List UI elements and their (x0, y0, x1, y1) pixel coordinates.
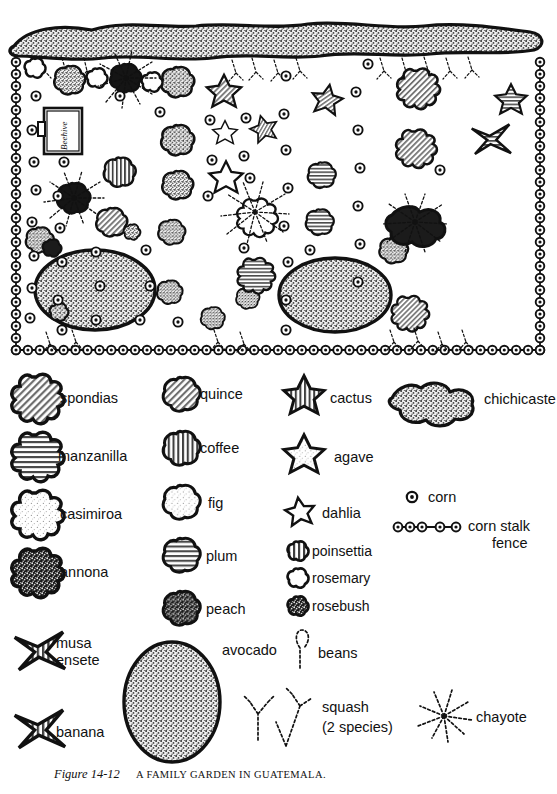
legend-label-chayote: chayote (476, 709, 527, 725)
legend-item-quince[interactable]: quince (163, 377, 243, 411)
legend-label-coffee: coffee (200, 440, 239, 456)
legend-label-fence: fence (492, 535, 527, 551)
legend-item-annona[interactable]: annona (12, 548, 109, 598)
legend-item-poinsettia[interactable]: poinsettia (288, 541, 373, 560)
caption-main: A FAMILY GARDEN IN GUATEMALA. (136, 769, 326, 780)
legend-label-banana: banana (56, 724, 105, 740)
chichicaste-hedge (10, 23, 542, 59)
map-beehive: Beehive (38, 108, 82, 154)
legend-item-musa-ensete[interactable]: musa ensete (15, 632, 100, 670)
legend-label-beans: beans (318, 645, 358, 661)
legend-label-rosebush: rosebush (312, 598, 370, 614)
legend-item-squash[interactable]: squash (2 species) (244, 688, 393, 746)
legend-item-avocado[interactable]: avocado (124, 642, 277, 762)
legend-item-chichicaste[interactable]: chichicaste (389, 383, 556, 426)
legend-label-chichicaste: chichicaste (484, 391, 556, 407)
legend-item-dahlia[interactable]: dahlia (284, 496, 362, 527)
legend-item-casimiroa[interactable]: casimiroa (12, 490, 123, 540)
legend-item-rosemary[interactable]: rosemary (288, 568, 371, 587)
figure-caption: Figure 14-12 A FAMILY GARDEN IN GUATEMAL… (53, 767, 326, 781)
legend-item-manzanilla[interactable]: manzanilla (12, 432, 128, 482)
legend-label-ensete: ensete (56, 652, 100, 668)
legend-item-plum[interactable]: plum (163, 538, 237, 572)
legend-label-quince: quince (200, 386, 243, 402)
legend-label-musa: musa (56, 635, 92, 651)
legend-item-rosebush[interactable]: rosebush (288, 596, 370, 615)
map-coffee (104, 158, 136, 187)
beehive-label: Beehive (59, 122, 69, 150)
legend: spondias manzanilla casimiroa annona mus… (12, 374, 556, 762)
legend-label-agave: agave (334, 449, 374, 465)
legend-item-banana[interactable]: banana (15, 710, 106, 748)
legend-label-dahlia: dahlia (322, 505, 362, 521)
legend-label-corn-stalk: corn stalk (468, 518, 531, 534)
legend-label-avocado: avocado (222, 642, 277, 658)
legend-item-spondias[interactable]: spondias (12, 374, 118, 424)
legend-label-annona: annona (60, 564, 109, 580)
legend-label-cactus: cactus (330, 390, 372, 406)
legend-item-peach[interactable]: peach (163, 591, 245, 625)
legend-item-beans[interactable]: beans (296, 630, 357, 668)
legend-item-agave[interactable]: agave (284, 435, 374, 473)
legend-item-corn-stalk-fence[interactable]: corn stalk fence (394, 518, 531, 551)
legend-label-spondias: spondias (60, 390, 118, 406)
legend-item-chayote[interactable]: chayote (418, 690, 527, 742)
legend-label-plum: plum (206, 548, 237, 564)
legend-item-corn[interactable]: corn (407, 489, 456, 505)
legend-label-corn: corn (428, 489, 456, 505)
corn-stalk-fence-sample (394, 523, 461, 532)
legend-label-squash: squash (322, 699, 369, 715)
garden-map: Beehive (10, 23, 546, 356)
legend-label-squash-species: (2 species) (322, 719, 393, 735)
legend-label-manzanilla: manzanilla (58, 448, 128, 464)
caption-prefix: Figure 14-12 (53, 767, 120, 781)
legend-item-fig[interactable]: fig (163, 485, 223, 519)
legend-item-cactus[interactable]: cactus (284, 376, 372, 414)
legend-item-coffee[interactable]: coffee (163, 431, 239, 465)
figure-root: Beehive spondias manzanilla casimiroa an… (0, 0, 557, 794)
legend-label-rosemary: rosemary (312, 570, 370, 586)
map-chichicaste-clumps (386, 207, 445, 247)
legend-label-casimiroa: casimiroa (60, 506, 123, 522)
legend-label-fig: fig (208, 495, 223, 511)
legend-label-poinsettia: poinsettia (312, 543, 372, 559)
legend-label-peach: peach (206, 601, 246, 617)
